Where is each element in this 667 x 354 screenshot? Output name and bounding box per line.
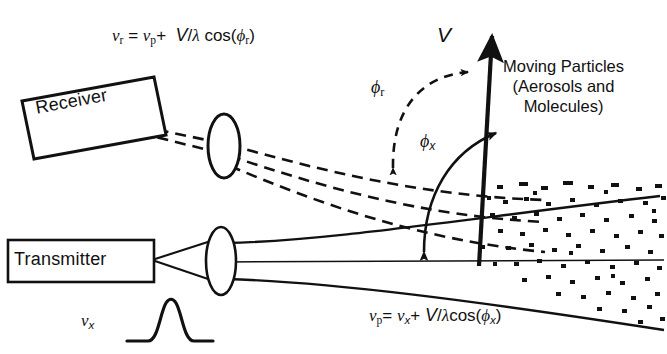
phi-r-subscript: r [380,85,384,99]
transmitted-frequency-formula: νp= νx+ V/λcos(ϕx) [369,306,502,328]
particle-cloud [481,181,666,324]
phi-r-symbol: ϕ [371,77,380,97]
moving-particles-line-2: (Aerosols and [503,76,624,96]
formula-bottom-V: V [425,305,437,325]
formula-top-plus: + [156,26,166,45]
nu-x-subscript: x [89,319,95,331]
phi-x-subscript: x [429,139,435,153]
formula-top-phi: ϕ [237,26,246,45]
formula-bottom-nu-2: ν [397,306,405,325]
gaussian-pulse-shape [127,299,213,341]
receiver-lens [208,114,240,178]
velocity-vector-label: V [437,24,451,47]
formula-bottom-plus: + [410,306,420,325]
formula-top-lambda: λ [192,26,199,45]
nu-x-symbol: ν [81,311,89,330]
phi-x-symbol: ϕ [420,131,429,151]
velocity-vector-V [479,36,492,266]
formula-top-equals: = [128,26,138,45]
formula-top-cos: cos( [204,26,236,45]
formula-bottom-equals: = [382,306,392,325]
moving-particles-line-1: Moving Particles [503,56,624,76]
formula-bottom-close: ) [496,306,502,325]
transmitter-lens [206,227,236,295]
formula-top-close: ) [249,26,255,45]
scene-vector-graphics [0,0,667,354]
transmitter-label: Transmitter [14,250,107,269]
angle-phi-x-label: ϕx [420,132,435,154]
receiver-frequency-formula: νr = νp+ V/λ cos(ϕr) [112,26,255,48]
formula-bottom-nu-1: ν [369,306,377,325]
formula-bottom-phi: ϕ [481,306,490,325]
angle-phi-r-label: ϕr [371,78,384,100]
formula-top-V: V [176,25,188,45]
formula-bottom-cos: cos( [449,306,481,325]
pulse-frequency-label: νx [81,312,94,332]
moving-particles-line-3: Molecules) [503,96,624,116]
formula-top-nu-1: ν [112,26,120,45]
diagram-canvas: Receiver Transmitter Moving Particles (A… [0,0,667,354]
moving-particles-label: Moving Particles (Aerosols and Molecules… [503,56,624,116]
